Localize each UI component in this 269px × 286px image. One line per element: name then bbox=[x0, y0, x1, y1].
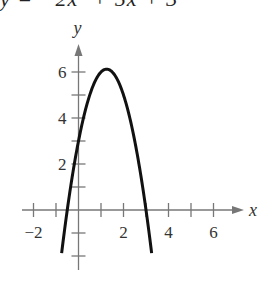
x-tick-label: 4 bbox=[164, 223, 173, 242]
y-axis-label: y bbox=[72, 18, 82, 38]
parabola-plot: −2246246xy bbox=[0, 0, 269, 286]
x-axis-arrow-icon bbox=[232, 206, 244, 214]
y-tick-label: 6 bbox=[58, 63, 67, 82]
y-tick-label: 4 bbox=[58, 109, 67, 128]
x-tick-label: −2 bbox=[24, 223, 42, 242]
x-axis-label: x bbox=[248, 200, 257, 220]
y-tick-label: 2 bbox=[58, 155, 67, 174]
x-tick-label: 6 bbox=[209, 223, 218, 242]
tick-labels: −2246246xy bbox=[24, 18, 257, 242]
y-axis-arrow-icon bbox=[75, 44, 83, 56]
parabola-curve bbox=[62, 69, 152, 253]
x-tick-label: 2 bbox=[119, 223, 128, 242]
